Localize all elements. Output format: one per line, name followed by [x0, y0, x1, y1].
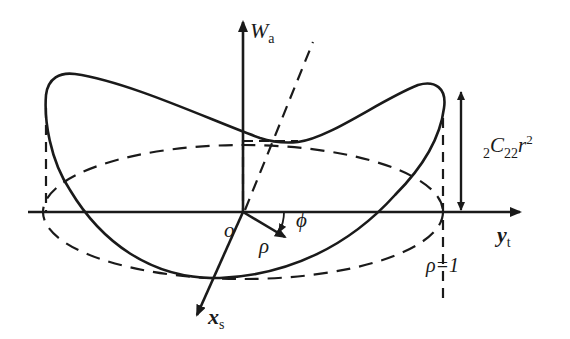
- diagram-canvas: [0, 0, 570, 339]
- x-axis-label: xs: [208, 306, 224, 328]
- aberration-surface: [46, 74, 445, 278]
- angle-arc: [279, 212, 284, 232]
- w-axis-label: Wa: [250, 20, 275, 42]
- radius-label: ρ: [259, 236, 269, 257]
- height-label: 2C22r2: [483, 135, 533, 156]
- oblique-dashed-line: [245, 42, 313, 210]
- projection-lines: [46, 108, 443, 300]
- x-axis-oblique: [197, 212, 243, 315]
- rim-label: ρ=1: [426, 255, 459, 275]
- angle-label: ϕ: [296, 210, 307, 231]
- aberration-diagram: Wa yt xs o ρ ϕ ρ=1 2C22r2: [0, 0, 570, 339]
- origin-label: o: [224, 220, 235, 241]
- y-axis-label: yt: [497, 224, 511, 246]
